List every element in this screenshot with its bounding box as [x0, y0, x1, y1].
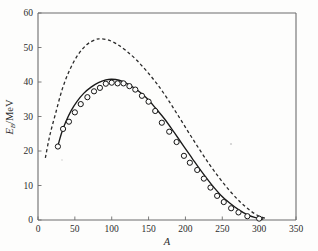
data-point-marker — [174, 139, 179, 144]
data-point-marker — [229, 206, 234, 211]
data-point-marker — [236, 210, 241, 215]
data-point-marker — [167, 129, 172, 134]
data-point-marker — [187, 160, 192, 165]
data-point-marker — [72, 110, 77, 115]
y-axis-title-unit: /MeV — [4, 99, 15, 124]
data-point-marker — [208, 185, 213, 190]
y-tick-label: 40 — [24, 77, 34, 87]
data-point-marker — [78, 101, 83, 106]
x-tick-label: 0 — [36, 224, 41, 234]
data-point-marker — [181, 153, 186, 158]
x-tick-label: 200 — [178, 224, 193, 234]
data-point-marker — [133, 87, 138, 92]
x-tick-label: 150 — [141, 224, 156, 234]
data-point-marker — [215, 193, 220, 198]
chart-figure: 0501001502002503003500102030405060 A EB/… — [0, 0, 318, 251]
x-tick-label: 100 — [105, 224, 120, 234]
data-point-marker — [60, 126, 65, 131]
x-tick-label: 250 — [215, 224, 230, 234]
data-point-marker — [121, 81, 126, 86]
scan-speck — [230, 143, 232, 145]
chart-background — [0, 0, 318, 251]
x-tick-label: 300 — [252, 224, 267, 234]
data-point-marker — [257, 216, 262, 221]
data-point-marker — [153, 108, 158, 113]
y-tick-label: 30 — [24, 112, 34, 122]
data-point-marker — [146, 99, 151, 104]
x-axis-title: A — [163, 236, 171, 247]
data-point-marker — [115, 81, 120, 86]
y-tick-label: 60 — [24, 8, 34, 18]
data-point-marker — [201, 176, 206, 181]
data-point-marker — [159, 120, 164, 125]
y-tick-label: 10 — [24, 181, 34, 191]
data-point-marker — [97, 85, 102, 90]
x-tick-label: 50 — [70, 224, 80, 234]
y-tick-label: 20 — [24, 146, 34, 156]
data-point-marker — [195, 167, 200, 172]
data-point-marker — [127, 84, 132, 89]
data-point-marker — [139, 93, 144, 98]
y-tick-label: 0 — [28, 215, 33, 225]
scan-speck — [61, 159, 63, 161]
data-point-marker — [245, 214, 250, 219]
data-point-marker — [221, 199, 226, 204]
y-tick-label: 50 — [24, 43, 34, 53]
data-point-marker — [85, 95, 90, 100]
x-tick-label: 350 — [289, 224, 304, 234]
data-point-marker — [103, 81, 108, 86]
data-point-marker — [109, 80, 114, 85]
data-point-marker — [66, 119, 71, 124]
chart-plot-svg: 0501001502002503003500102030405060 A EB/… — [0, 0, 318, 251]
data-point-marker — [91, 89, 96, 94]
data-point-marker — [55, 144, 60, 149]
